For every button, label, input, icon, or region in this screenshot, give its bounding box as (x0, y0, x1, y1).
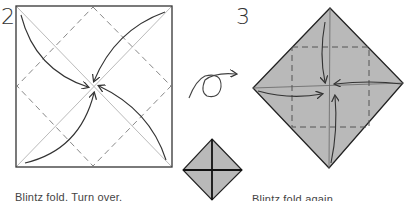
result-preview-diamond (183, 139, 242, 200)
step-3-caption: Blintz fold again. (252, 193, 336, 201)
step-2-caption: Blintz fold. Turn over. (15, 191, 122, 201)
step-3-diamond (253, 8, 403, 168)
turn-over-arrow-icon (189, 74, 236, 98)
origami-diagram (0, 0, 404, 201)
step-2-square (16, 6, 172, 167)
